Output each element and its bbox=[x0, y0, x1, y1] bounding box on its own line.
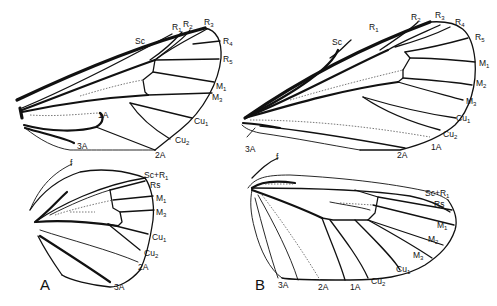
svg-text:M2: M2 bbox=[428, 234, 439, 245]
svg-text:f: f bbox=[70, 158, 73, 168]
svg-text:R3: R3 bbox=[435, 10, 445, 21]
svg-text:Sc+R1: Sc+R1 bbox=[425, 188, 450, 199]
svg-text:1A: 1A bbox=[431, 142, 442, 152]
panel-a-hindwing bbox=[30, 164, 154, 287]
svg-text:M3: M3 bbox=[212, 92, 223, 103]
svg-text:Cu2: Cu2 bbox=[443, 129, 458, 140]
svg-text:Rs: Rs bbox=[434, 199, 444, 209]
svg-text:R1: R1 bbox=[172, 22, 182, 33]
svg-text:M3: M3 bbox=[466, 96, 477, 107]
svg-text:M3: M3 bbox=[156, 207, 167, 218]
panel-a-forewing bbox=[17, 28, 221, 150]
svg-text:2A: 2A bbox=[155, 150, 166, 160]
svg-text:1A: 1A bbox=[98, 110, 109, 120]
svg-text:Cu1: Cu1 bbox=[396, 264, 411, 275]
svg-text:Cu1: Cu1 bbox=[152, 232, 167, 243]
svg-text:3A: 3A bbox=[278, 280, 289, 290]
panel-label-a: A bbox=[40, 276, 50, 293]
svg-text:Cu1: Cu1 bbox=[456, 113, 471, 124]
panel-b-forewing-labels: Sc R1 R2 R3 R4 R5 M1 M2 M3 Cu1 Cu2 1A 2A… bbox=[245, 10, 490, 160]
svg-text:3A: 3A bbox=[114, 282, 125, 292]
svg-text:f: f bbox=[276, 152, 279, 162]
panel-b-forewing bbox=[242, 22, 475, 150]
panel-b-hindwing-labels: f Sc+R1 Rs M1 M2 M3 Cu1 Cu2 1A 2A 3A B bbox=[255, 152, 450, 293]
label-sc: Sc bbox=[135, 36, 146, 46]
svg-text:M1: M1 bbox=[156, 193, 167, 204]
svg-text:Cu1: Cu1 bbox=[194, 116, 209, 127]
svg-text:R5: R5 bbox=[223, 54, 233, 65]
svg-text:R4: R4 bbox=[455, 17, 465, 28]
svg-text:3A: 3A bbox=[77, 141, 88, 151]
svg-text:2A: 2A bbox=[138, 262, 149, 272]
svg-text:Rs: Rs bbox=[150, 180, 160, 190]
wing-venation-drawing: Sc R1 R2 R3 R4 R5 M1 M3 Cu1 Cu2 2A 1A 3A bbox=[0, 0, 497, 306]
svg-text:R4: R4 bbox=[223, 36, 233, 47]
panel-a-forewing-labels: Sc R1 R2 R3 R4 R5 M1 M3 Cu1 Cu2 2A 1A 3A bbox=[77, 17, 233, 160]
svg-text:R5: R5 bbox=[475, 32, 485, 43]
svg-text:M1: M1 bbox=[479, 58, 490, 69]
svg-text:R3: R3 bbox=[204, 17, 214, 28]
panel-b-hindwing bbox=[248, 158, 456, 280]
svg-text:Cu2: Cu2 bbox=[175, 135, 190, 146]
svg-text:Sc: Sc bbox=[135, 36, 146, 46]
wing-venation-figure: Sc R1 R2 R3 R4 R5 M1 M3 Cu1 Cu2 2A 1A 3A bbox=[0, 0, 497, 306]
svg-text:Cu2: Cu2 bbox=[144, 248, 159, 259]
svg-text:M1: M1 bbox=[216, 81, 227, 92]
svg-text:Sc: Sc bbox=[332, 37, 343, 47]
svg-text:1A: 1A bbox=[350, 282, 361, 292]
svg-text:M2: M2 bbox=[476, 78, 487, 89]
svg-text:R1: R1 bbox=[369, 22, 379, 33]
svg-text:M1: M1 bbox=[437, 220, 448, 231]
svg-text:2A: 2A bbox=[397, 150, 408, 160]
svg-text:R2: R2 bbox=[411, 12, 421, 23]
svg-text:2A: 2A bbox=[318, 282, 329, 292]
panel-label-b: B bbox=[255, 276, 265, 293]
svg-text:3A: 3A bbox=[245, 144, 256, 154]
svg-text:R2: R2 bbox=[183, 19, 193, 30]
panel-a-hindwing-labels: f Sc+R1 Rs M1 M3 Cu1 Cu2 2A 3A A bbox=[40, 158, 169, 293]
